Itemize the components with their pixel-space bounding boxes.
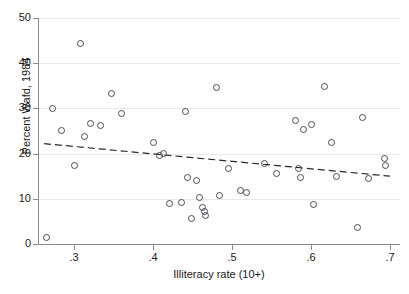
gridline-y-30 — [38, 108, 400, 109]
data-point — [292, 117, 299, 124]
data-point — [300, 126, 307, 133]
y-tick-label-50: 50 — [5, 12, 31, 23]
gridline-y-50 — [38, 18, 400, 19]
x-tick-0.7 — [390, 245, 391, 250]
x-axis-line — [38, 244, 400, 245]
data-point — [81, 133, 88, 140]
scatter-plot-figure: 01020304050 .3.4.5.6.7 Percent Wafd, 198… — [0, 0, 409, 294]
data-point — [108, 90, 115, 97]
x-tick-0.5 — [232, 245, 233, 250]
x-tick-0.4 — [153, 245, 154, 250]
data-point — [188, 215, 195, 222]
y-axis-line — [38, 18, 39, 244]
data-point — [297, 174, 304, 181]
y-tick-label-0: 0 — [5, 238, 31, 249]
data-point — [184, 174, 191, 181]
x-tick-0.6 — [311, 245, 312, 250]
x-tick-0.3 — [74, 245, 75, 250]
data-point — [354, 224, 361, 231]
data-point — [295, 165, 302, 172]
data-point — [87, 120, 94, 127]
x-tick-label-0.4: .4 — [141, 252, 165, 263]
data-point — [261, 160, 268, 167]
x-tick-label-0.6: .6 — [299, 252, 323, 263]
gridline-y-20 — [38, 154, 400, 155]
data-point — [216, 192, 223, 199]
y-tick-label-10: 10 — [5, 193, 31, 204]
gridline-y-40 — [38, 63, 400, 64]
data-point — [178, 199, 185, 206]
x-axis-title: Illiteracy rate (10+) — [38, 268, 400, 280]
data-point — [182, 108, 189, 115]
data-point — [273, 170, 280, 177]
data-point — [213, 84, 220, 91]
y-axis-title: Percent Wafd, 1984 — [20, 31, 32, 181]
plot-area — [38, 10, 400, 244]
x-tick-label-0.7: .7 — [378, 252, 402, 263]
data-point — [58, 127, 65, 134]
x-tick-label-0.5: .5 — [220, 252, 244, 263]
data-point — [160, 150, 167, 157]
x-tick-label-0.3: .3 — [62, 252, 86, 263]
data-point — [71, 162, 78, 169]
